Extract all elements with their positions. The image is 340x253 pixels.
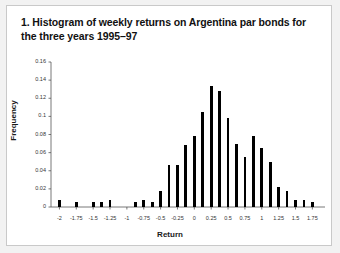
histogram-bar [286,191,289,207]
histogram-bars [51,62,327,207]
histogram-bar [109,200,112,207]
histogram-bar [244,157,247,207]
histogram-bar [184,145,187,207]
histogram-bar [218,91,221,207]
histogram-plot: Frequency Return 0.160.140.120.10.080.06… [7,6,333,247]
histogram-bar [142,200,145,207]
histogram-bar [100,202,103,207]
figure-panel: 1. Histogram of weekly returns on Argent… [6,5,332,246]
histogram-bar [168,165,171,207]
histogram-bar [227,118,230,207]
histogram-bar [235,144,238,207]
histogram-bar [151,202,154,207]
histogram-bar [303,200,306,207]
histogram-bar [210,86,213,207]
histogram-bar [75,202,78,207]
histogram-bar [134,202,137,207]
histogram-bar [58,200,61,207]
histogram-bar [269,162,272,207]
histogram-bar [252,136,255,207]
histogram-bar [294,200,297,207]
histogram-bar [176,165,179,207]
histogram-bar [159,191,162,207]
x-tick-label: 1.75 [299,215,325,221]
histogram-bar [201,112,204,207]
histogram-bar [193,136,196,207]
histogram-bar [92,202,95,207]
histogram-bar [311,202,314,207]
histogram-bar [260,148,263,207]
histogram-bar [277,187,280,207]
